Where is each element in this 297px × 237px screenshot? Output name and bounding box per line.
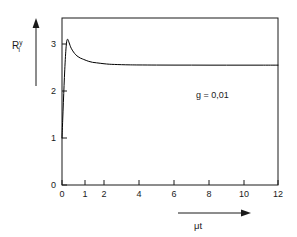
x-tick-label-12: 12 (273, 190, 283, 199)
x-tick-label-2: 2 (101, 190, 106, 199)
x-tick-label-4: 4 (136, 190, 141, 199)
y-axis-arrow-icon (33, 18, 40, 86)
y-tick-label-1: 1 (46, 134, 56, 143)
y-tick-label-0: 0 (46, 181, 56, 190)
x-tick-label-8: 8 (206, 190, 211, 199)
x-axis-ticks (62, 180, 278, 185)
y-tick-label-3: 3 (46, 40, 56, 49)
data-series-line (62, 39, 278, 138)
x-axis-arrow-icon (178, 210, 251, 217)
x-tick-label-0: 0 (59, 190, 64, 199)
plot-canvas (0, 0, 297, 237)
y-axis-label: Ryi (12, 40, 20, 54)
y-axis-label-subscript: i (18, 46, 19, 53)
chart-figure: Ryi μt g = 0,01 01246810120123 (0, 0, 297, 237)
x-axis-label: μt (194, 221, 202, 231)
chart-annotation: g = 0,01 (196, 91, 229, 100)
x-tick-label-6: 6 (171, 190, 176, 199)
plot-frame (62, 18, 278, 185)
y-axis-label-superscript: y (19, 39, 22, 46)
x-tick-label-1: 1 (82, 190, 87, 199)
y-tick-label-2: 2 (46, 87, 56, 96)
x-tick-label-10: 10 (239, 190, 249, 199)
